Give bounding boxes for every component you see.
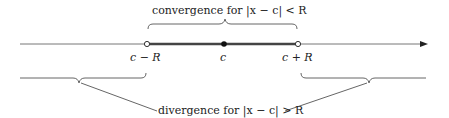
- convergence-label: convergence for |x − c| < R: [152, 5, 307, 16]
- arrow-head-icon: [420, 41, 428, 47]
- open-endpoint-right: [295, 41, 300, 46]
- center-point: [221, 41, 227, 47]
- divergence-label: divergence for |x − c| > R: [158, 105, 303, 116]
- top-brace: [148, 19, 297, 29]
- leader-line-left: [81, 83, 157, 111]
- bottom-right-brace: [301, 73, 426, 83]
- point-label-left: c − R: [130, 52, 161, 63]
- point-label-center: c: [220, 52, 226, 63]
- convergence-diagram: convergence for |x − c| < R c − R c c + …: [0, 0, 449, 118]
- point-label-right: c + R: [282, 52, 313, 63]
- open-endpoint-left: [144, 41, 149, 46]
- bottom-left-brace: [20, 73, 146, 83]
